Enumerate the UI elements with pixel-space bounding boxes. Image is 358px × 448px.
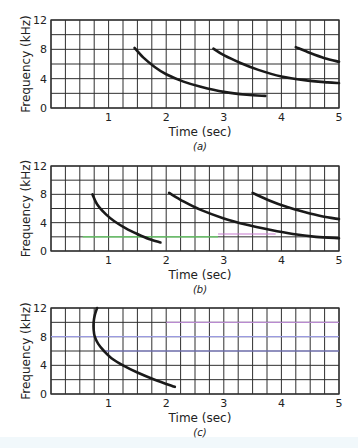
y-tick-label: 12 (33, 302, 47, 315)
x-tick-label: 3 (220, 254, 227, 267)
x-axis-label: Time (sec) (168, 125, 232, 139)
x-tick-label: 2 (163, 397, 170, 410)
x-tick-label: 1 (105, 254, 112, 267)
x-axis-label: Time (sec) (168, 411, 232, 425)
panel-b: 0481212345Time (sec)(b)Frequency (kHz) (19, 160, 343, 295)
y-tick-label: 0 (40, 388, 47, 401)
x-tick-label: 1 (105, 397, 112, 410)
x-tick-label: 2 (163, 254, 170, 267)
y-axis-label: Frequency (kHz) (19, 15, 33, 112)
panel-c: 0481212345Time (sec)(c)Frequency (kHz) (19, 302, 343, 438)
panel-label: (a) (193, 141, 207, 152)
y-tick-label: 4 (40, 73, 47, 86)
y-tick-label: 12 (33, 160, 47, 173)
x-tick-label: 4 (278, 254, 285, 267)
x-tick-label: 4 (278, 111, 285, 124)
x-tick-label: 4 (278, 397, 285, 410)
panel-label: (c) (193, 427, 206, 438)
x-tick-label: 2 (163, 111, 170, 124)
grid (51, 20, 339, 108)
x-tick-label: 5 (336, 254, 343, 267)
x-tick-label: 5 (336, 111, 343, 124)
x-tick-label: 3 (220, 397, 227, 410)
y-axis-label: Frequency (kHz) (19, 302, 33, 399)
x-tick-label: 5 (336, 397, 343, 410)
spectrogram-figure: 0481212345Time (sec)(a)Frequency (kHz) 0… (0, 0, 358, 448)
frequency-glide-curve (213, 49, 339, 83)
frequency-glide-curve (92, 194, 160, 242)
y-tick-label: 4 (40, 217, 47, 230)
y-tick-label: 0 (40, 102, 47, 115)
panel-label: (b) (193, 284, 207, 295)
y-tick-label: 4 (40, 359, 47, 372)
y-tick-label: 0 (40, 245, 47, 258)
x-tick-label: 1 (105, 111, 112, 124)
frequency-glide-curve (93, 308, 174, 387)
panel-a: 0481212345Time (sec)(a)Frequency (kHz) (19, 14, 343, 152)
y-axis-label: Frequency (kHz) (19, 160, 33, 257)
y-tick-label: 12 (33, 14, 47, 27)
y-tick-label: 8 (40, 331, 47, 344)
frequency-glide-curve (135, 48, 266, 96)
y-tick-label: 8 (40, 188, 47, 201)
y-tick-label: 8 (40, 43, 47, 56)
x-axis-label: Time (sec) (168, 268, 232, 282)
x-tick-label: 3 (220, 111, 227, 124)
